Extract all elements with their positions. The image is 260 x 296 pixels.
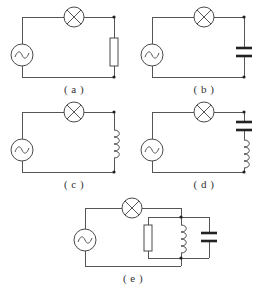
circuit-label-a: ( a ) bbox=[46, 83, 102, 95]
inductor-icon bbox=[244, 140, 249, 168]
node-dot bbox=[242, 15, 245, 18]
capacitor-icon bbox=[201, 233, 217, 241]
node-dot bbox=[112, 170, 115, 173]
circuit-b bbox=[141, 7, 252, 79]
lamp-icon bbox=[194, 7, 214, 27]
circuit-figure: ( a ) ( b ) ( c ) ( d ) ( e ) bbox=[0, 0, 260, 296]
ac-source-icon bbox=[141, 139, 163, 161]
lamp-icon bbox=[64, 7, 84, 27]
circuit-label-d: ( d ) bbox=[176, 178, 232, 190]
lamp-icon bbox=[194, 102, 214, 122]
lamp-icon bbox=[64, 102, 84, 122]
capacitor-icon bbox=[236, 48, 252, 56]
node-dot bbox=[179, 215, 182, 218]
circuit-label-c: ( c ) bbox=[46, 178, 102, 190]
ac-source-icon bbox=[141, 44, 163, 66]
circuit-canvas bbox=[0, 0, 260, 296]
ac-source-icon bbox=[11, 139, 33, 161]
circuit-c bbox=[11, 102, 119, 174]
circuit-d bbox=[141, 102, 252, 174]
node-dot bbox=[112, 110, 115, 113]
node-dot bbox=[112, 15, 115, 18]
node-dot bbox=[112, 75, 115, 78]
inductor-icon bbox=[181, 225, 186, 253]
node-dot bbox=[242, 170, 245, 173]
ac-source-icon bbox=[11, 44, 33, 66]
resistor-icon bbox=[144, 225, 152, 251]
node-dot bbox=[242, 110, 245, 113]
inductor-icon bbox=[114, 130, 119, 158]
ac-source-icon bbox=[74, 229, 96, 251]
node-dot bbox=[242, 75, 245, 78]
circuit-label-e: ( e ) bbox=[105, 272, 161, 284]
node-dot bbox=[179, 256, 182, 259]
circuit-label-b: ( b ) bbox=[176, 83, 232, 95]
circuit-e bbox=[74, 198, 217, 266]
resistor-icon bbox=[110, 38, 118, 66]
lamp-icon bbox=[122, 198, 142, 218]
circuit-a bbox=[11, 7, 118, 79]
capacitor-icon bbox=[236, 122, 252, 130]
